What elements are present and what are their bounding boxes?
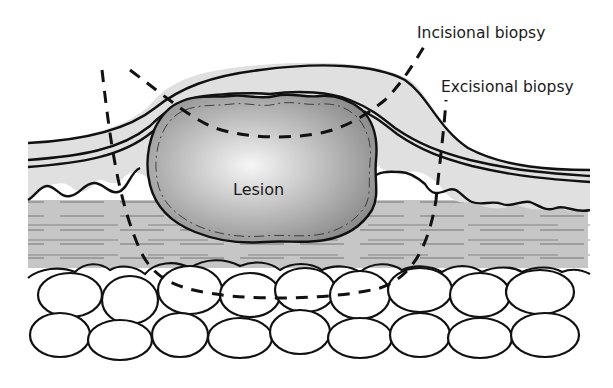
excisional-biopsy-label: Excisional biopsy xyxy=(441,78,574,96)
biopsy-diagram: Incisional biopsy Excisional biopsy Lesi… xyxy=(0,0,613,388)
incisional-biopsy-label: Incisional biopsy xyxy=(417,24,545,42)
diagram-canvas xyxy=(0,0,613,388)
lesion-label: Lesion xyxy=(233,180,284,199)
lesion xyxy=(148,95,377,243)
fat-layer xyxy=(28,260,590,360)
